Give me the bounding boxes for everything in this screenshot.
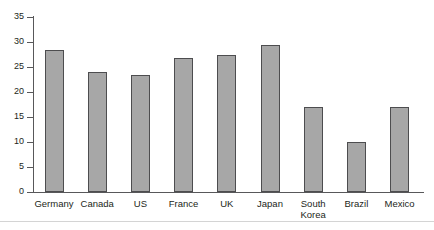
x-axis-category-label: Canada (76, 198, 119, 209)
x-axis-category-label: US (119, 198, 162, 209)
x-axis-category-label: UK (205, 198, 248, 209)
bar (131, 75, 150, 193)
bar (261, 45, 280, 193)
bar (390, 107, 409, 192)
x-axis-category-label: Japan (248, 198, 291, 209)
y-axis-tick-label: 25 (0, 62, 24, 71)
x-axis-labels: GermanyCanadaUSFranceUKJapanSouth KoreaB… (0, 195, 434, 227)
x-axis-category-label: Brazil (335, 198, 378, 209)
x-axis-category-label: Germany (32, 198, 75, 209)
y-axis-tick-label: 35 (0, 12, 24, 21)
y-axis-tick-label: 10 (0, 137, 24, 146)
y-axis-tick-label: 5 (0, 162, 24, 171)
bar (45, 50, 64, 192)
bar (347, 142, 366, 192)
x-axis-category-label: France (162, 198, 205, 209)
y-axis-tick-label: 15 (0, 112, 24, 121)
plot-area (33, 14, 430, 192)
bar (88, 72, 107, 193)
bottom-divider (0, 221, 434, 222)
bar-chart: 05101520253035 GermanyCanadaUSFranceUKJa… (0, 0, 434, 230)
y-axis-tick-label: 30 (0, 37, 24, 46)
x-axis-baseline (33, 192, 424, 193)
bar (174, 58, 193, 193)
bar (217, 55, 236, 192)
x-axis-category-label: Mexico (378, 198, 421, 209)
bar (304, 107, 323, 192)
x-axis-category-label: South Korea (292, 198, 335, 220)
y-axis-tick-label: 20 (0, 87, 24, 96)
